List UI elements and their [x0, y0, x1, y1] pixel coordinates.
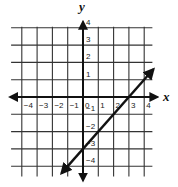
y-tick-label: −2 — [86, 122, 96, 131]
coordinate-plane: −4−3−2−101234−4−3−2−11234 x y — [0, 0, 178, 187]
plotted-line — [62, 69, 154, 173]
y-tick-label: 4 — [86, 18, 91, 27]
y-tick-label: 2 — [86, 52, 91, 61]
y-tick-label: 1 — [86, 70, 91, 79]
x-tick-label: −3 — [39, 101, 49, 110]
x-tick-label: −4 — [24, 101, 34, 110]
x-tick-label: 4 — [146, 101, 151, 110]
y-tick-label: −4 — [86, 156, 96, 165]
y-tick-label: −1 — [86, 104, 96, 113]
x-tick-label: −1 — [70, 101, 80, 110]
y-tick-label: 3 — [86, 35, 91, 44]
y-axis-label: y — [77, 0, 85, 14]
x-tick-label: −2 — [54, 101, 64, 110]
line-series — [62, 69, 154, 173]
x-tick-label: 1 — [100, 101, 105, 110]
x-tick-label: 3 — [131, 101, 136, 110]
x-axis-label: x — [162, 89, 170, 104]
